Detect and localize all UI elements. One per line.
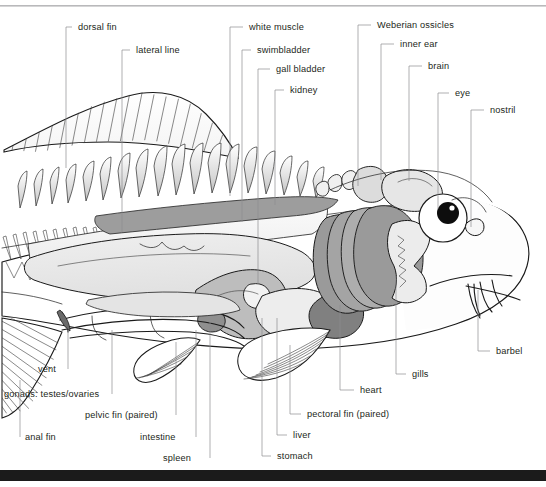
label-brain: brain [428, 61, 449, 71]
leader-line-inner-ear [381, 44, 394, 180]
leader-line-brain [409, 66, 422, 181]
callout-eye: eye [438, 88, 470, 209]
leader-line-swimbladder [242, 50, 251, 222]
gills [313, 206, 430, 314]
callout-kidney: kidney [275, 85, 318, 205]
pelvic-fin [134, 338, 200, 383]
label-weberian: Weberian ossicles [377, 20, 454, 30]
caudal-peduncle [2, 292, 62, 304]
label-pectoral-fin: pectoral fin (paired) [307, 409, 389, 419]
label-vent: vent [38, 364, 56, 374]
label-barbel: barbel [496, 346, 522, 356]
label-eye: eye [455, 88, 470, 98]
callout-brain: brain [409, 61, 449, 181]
label-swimbladder: swimbladder [257, 45, 310, 55]
eye-highlight [449, 205, 454, 210]
label-lateral-line: lateral line [136, 45, 180, 55]
label-kidney: kidney [290, 85, 318, 95]
label-intestine: intestine [140, 432, 176, 442]
label-white-muscle: white muscle [248, 22, 304, 32]
fish-anatomy-diagram: dorsal finlateral linewhite muscleswimbl… [0, 0, 546, 487]
label-inner-ear: inner ear [400, 39, 438, 49]
label-gonads: gonads: testes/ovaries [4, 389, 99, 399]
fish-anatomy-figure: dorsal finlateral linewhite muscleswimbl… [0, 0, 546, 487]
label-spleen: spleen [163, 453, 191, 463]
nostril [466, 219, 484, 236]
callout-dorsal-fin: dorsal fin [66, 22, 117, 168]
label-nostril: nostril [490, 105, 516, 115]
fish-body-group [0, 82, 529, 424]
eye [419, 194, 467, 242]
top-rule [0, 5, 546, 7]
label-dorsal-fin: dorsal fin [78, 22, 117, 32]
label-gills: gills [412, 369, 429, 379]
eye-pupil [437, 202, 459, 224]
label-pelvic-fin: pelvic fin (paired) [85, 410, 158, 420]
label-anal-fin: anal fin [25, 432, 56, 442]
bottom-bar [0, 470, 546, 481]
label-stomach: stomach [277, 451, 313, 461]
label-gall-bladder: gall bladder [276, 64, 325, 74]
leader-line-weberian [358, 25, 371, 186]
leader-line-dorsal-fin [66, 27, 72, 168]
label-heart: heart [360, 385, 382, 395]
vent-opening [57, 310, 70, 331]
label-liver: liver [293, 430, 311, 440]
